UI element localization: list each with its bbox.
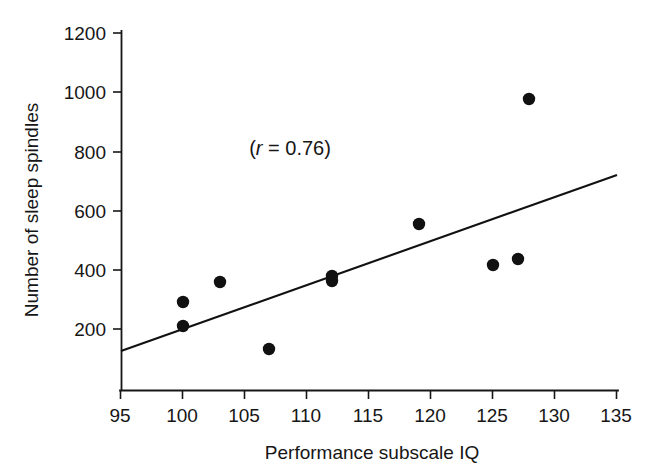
y-tick-label-1200: 1200 — [64, 23, 106, 44]
x-tick-label-120: 120 — [414, 405, 446, 426]
x-tick-label-135: 135 — [600, 405, 632, 426]
data-point — [263, 343, 275, 355]
scatter-plot-figure: 1200 1000 800 600 400 200 95 100 105 110… — [0, 0, 658, 474]
plot-canvas: 1200 1000 800 600 400 200 95 100 105 110… — [0, 0, 658, 474]
annotation-value: 0.76 — [285, 137, 324, 159]
x-tick-label-100: 100 — [166, 405, 198, 426]
data-point — [523, 93, 535, 105]
data-point — [177, 320, 189, 332]
annotation-close-paren: ) — [324, 137, 331, 159]
x-tick-marks — [121, 391, 617, 399]
data-point — [214, 276, 226, 288]
x-tick-label-105: 105 — [228, 405, 260, 426]
y-tick-label-1000: 1000 — [64, 82, 106, 103]
correlation-annotation: (r = 0.76) — [249, 137, 331, 159]
annotation-equals: = — [262, 137, 285, 159]
y-tick-labels: 1200 1000 800 600 400 200 — [64, 23, 106, 340]
axes-group — [120, 31, 618, 391]
x-tick-labels: 95 100 105 110 115 120 125 130 135 — [109, 405, 631, 426]
regression-line — [121, 175, 617, 351]
y-tick-label-600: 600 — [74, 201, 106, 222]
y-tick-label-400: 400 — [74, 260, 106, 281]
x-tick-label-110: 110 — [291, 405, 321, 426]
y-tick-marks — [113, 33, 121, 329]
x-axis-title: Performance subscale IQ — [265, 442, 479, 463]
x-tick-label-125: 125 — [476, 405, 508, 426]
y-tick-label-200: 200 — [74, 319, 106, 340]
data-point — [177, 296, 189, 308]
y-axis-title: Number of sleep spindles — [21, 103, 42, 317]
data-point — [512, 253, 524, 265]
data-point — [413, 218, 425, 230]
x-tick-label-130: 130 — [538, 405, 570, 426]
x-tick-label-115: 115 — [353, 405, 383, 426]
x-tick-label-95: 95 — [109, 405, 130, 426]
data-point — [487, 259, 499, 271]
data-point — [326, 275, 338, 287]
y-tick-label-800: 800 — [74, 142, 106, 163]
